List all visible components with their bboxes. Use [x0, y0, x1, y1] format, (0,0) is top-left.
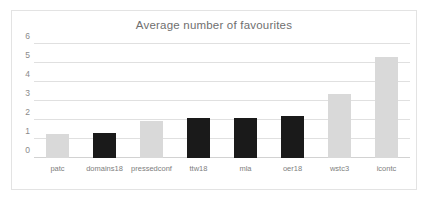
- bar-slot: [175, 44, 222, 158]
- bar-oer18[interactable]: [281, 116, 304, 158]
- bar-series: [34, 44, 410, 158]
- bar-wstc3[interactable]: [328, 94, 351, 158]
- x-axis-label-wstc3: wstc3: [316, 163, 363, 175]
- x-axis-label-icontc: icontc: [363, 163, 410, 175]
- chart-container: Average number of favourites 0123456 pat…: [11, 10, 417, 190]
- bar-slot: [222, 44, 269, 158]
- y-axis-tick-label: 4: [25, 70, 30, 79]
- y-axis-tick-label: 0: [25, 146, 30, 155]
- y-axis-tick-label: 1: [25, 127, 30, 136]
- bar-mla[interactable]: [234, 118, 257, 158]
- y-axis-tick-label: 3: [25, 89, 30, 98]
- bar-slot: [363, 44, 410, 158]
- bar-patc[interactable]: [46, 134, 69, 158]
- bar-domains18[interactable]: [93, 133, 116, 158]
- x-axis-label-patc: patc: [34, 163, 81, 175]
- x-axis-label-mla: mla: [222, 163, 269, 175]
- bar-slot: [128, 44, 175, 158]
- x-axis-label-ttw18: ttw18: [175, 163, 222, 175]
- x-axis-label-oer18: oer18: [269, 163, 316, 175]
- y-axis-tick-label: 6: [25, 32, 30, 41]
- bar-pressedconf[interactable]: [140, 121, 163, 158]
- bar-icontc[interactable]: [375, 57, 398, 158]
- bar-slot: [81, 44, 128, 158]
- y-axis-tick-label: 2: [25, 108, 30, 117]
- chart-title: Average number of favourites: [12, 19, 416, 31]
- plot-area: 0123456: [34, 44, 410, 158]
- bar-ttw18[interactable]: [187, 118, 210, 158]
- bar-slot: [269, 44, 316, 158]
- bar-slot: [34, 44, 81, 158]
- y-axis-tick-label: 5: [25, 51, 30, 60]
- bar-slot: [316, 44, 363, 158]
- x-axis-label-domains18: domains18: [81, 163, 128, 175]
- x-axis-category-labels: patcdomains18pressedconfttw18mlaoer18wst…: [34, 163, 410, 175]
- x-axis-label-pressedconf: pressedconf: [128, 163, 175, 175]
